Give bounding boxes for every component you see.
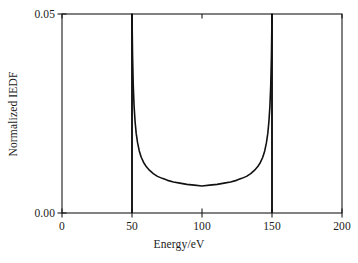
x-tick-label: 50 bbox=[126, 220, 138, 233]
x-tick-label: 150 bbox=[263, 220, 281, 233]
y-tick-label: 0.05 bbox=[34, 8, 55, 21]
y-axis-label: Normalized IEDF bbox=[7, 54, 19, 174]
plot-canvas bbox=[0, 0, 358, 263]
iedf-curve bbox=[132, 14, 272, 186]
x-tick-label: 0 bbox=[59, 220, 65, 233]
axis-ticks bbox=[58, 14, 343, 218]
x-axis-label: Energy/eV bbox=[0, 238, 358, 250]
chart-figure: 050100150200 0.000.05 Energy/eV Normaliz… bbox=[0, 0, 358, 263]
peak-spikes bbox=[132, 14, 272, 213]
x-tick-label: 200 bbox=[333, 220, 351, 233]
y-tick-label: 0.00 bbox=[34, 207, 55, 220]
x-tick-label: 100 bbox=[193, 220, 211, 233]
plot-frame bbox=[62, 14, 342, 213]
